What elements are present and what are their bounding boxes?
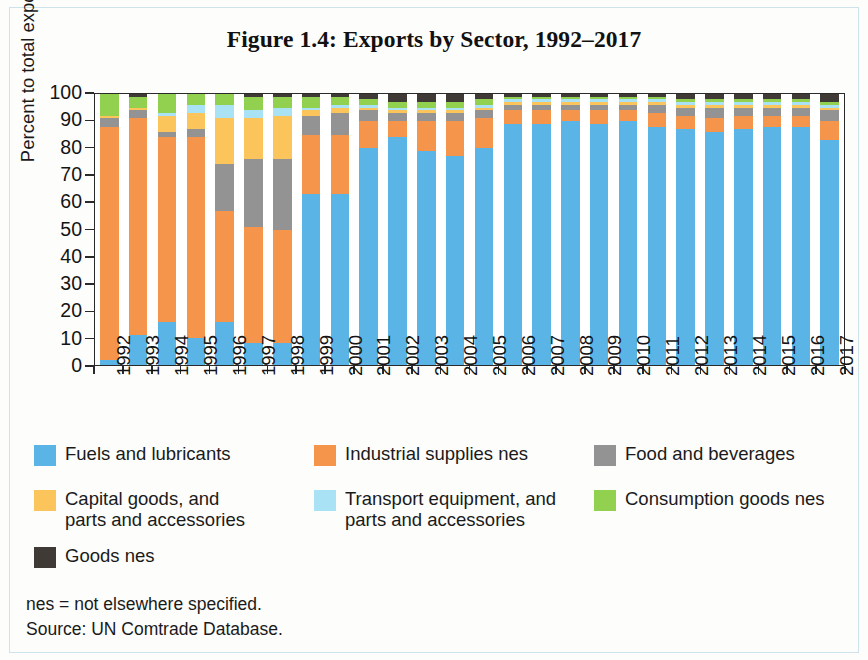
y-axis-tick-label: 30: [34, 274, 82, 294]
legend-label: Food and beverages: [625, 443, 795, 464]
bar-segment[interactable]: [763, 116, 781, 127]
x-axis-tick-label: 2005: [491, 306, 510, 376]
bar-segment[interactable]: [187, 94, 205, 105]
bar-segment[interactable]: [100, 118, 118, 126]
bar-segment[interactable]: [244, 118, 262, 159]
x-axis-tick-label: 2000: [347, 306, 366, 376]
bar-segment[interactable]: [388, 121, 406, 137]
x-axis-tick-label: 2011: [664, 306, 683, 376]
legend-item-consumption[interactable]: Consumption goods nes: [594, 488, 825, 511]
bar-segment[interactable]: [187, 105, 205, 113]
bar-segment[interactable]: [417, 121, 435, 151]
bar-segment[interactable]: [705, 118, 723, 132]
x-axis-tick-label: 1995: [202, 306, 221, 376]
y-axis-tick: [85, 92, 94, 94]
legend-label: Fuels and lubricants: [65, 443, 231, 464]
bar-segment[interactable]: [734, 108, 752, 116]
bar-segment[interactable]: [475, 110, 493, 118]
bar-segment[interactable]: [100, 94, 118, 116]
legend-item-industrial[interactable]: Industrial supplies nes: [314, 443, 528, 466]
legend-item-goodsnes[interactable]: Goods nes: [34, 545, 154, 568]
bar-segment[interactable]: [244, 97, 262, 111]
bar-segment[interactable]: [158, 116, 176, 132]
bar-segment[interactable]: [302, 97, 320, 108]
bar-segment[interactable]: [158, 137, 176, 321]
bar-segment[interactable]: [792, 116, 810, 127]
bar-segment[interactable]: [359, 110, 377, 121]
bar-segment[interactable]: [705, 108, 723, 119]
bar-segment[interactable]: [417, 94, 435, 102]
x-axis-tick-label: 2009: [606, 306, 625, 376]
legend-rows: Fuels and lubricantsIndustrial supplies …: [34, 443, 849, 593]
bar-segment[interactable]: [129, 118, 147, 335]
bar-segment[interactable]: [388, 113, 406, 121]
legend-swatch-icon: [314, 445, 336, 466]
bar-segment[interactable]: [676, 108, 694, 116]
bar-segment[interactable]: [359, 121, 377, 148]
figure-page: Figure 1.4: Exports by Sector, 1992–2017…: [0, 0, 868, 660]
bar-segment[interactable]: [331, 97, 349, 105]
legend-item-fuels[interactable]: Fuels and lubricants: [34, 443, 231, 466]
x-axis-tick-label: 1999: [318, 306, 337, 376]
bar-segment[interactable]: [417, 113, 435, 121]
x-axis-tick-label: 1998: [289, 306, 308, 376]
bar-segment[interactable]: [763, 108, 781, 116]
x-axis-tick: [93, 366, 95, 374]
legend-swatch-icon: [594, 490, 616, 511]
y-axis-tick-label: 60: [34, 192, 82, 212]
bar-segment[interactable]: [215, 105, 233, 119]
bar-segment[interactable]: [215, 118, 233, 164]
bar-segment[interactable]: [820, 121, 838, 140]
bar-segment[interactable]: [187, 113, 205, 129]
bar-segment[interactable]: [792, 108, 810, 116]
bar-segment[interactable]: [215, 164, 233, 210]
bar-segment[interactable]: [244, 159, 262, 227]
bar-segment[interactable]: [187, 129, 205, 137]
bar-segment[interactable]: [273, 116, 291, 159]
figure-notes: nes = not elsewhere specified. Source: U…: [26, 592, 283, 642]
bar-segment[interactable]: [273, 97, 291, 108]
bar-segment[interactable]: [648, 113, 666, 127]
legend-swatch-icon: [34, 490, 56, 511]
bar-segment[interactable]: [446, 121, 464, 156]
bar-segment[interactable]: [273, 108, 291, 116]
bar-segment[interactable]: [302, 116, 320, 135]
bar-segment[interactable]: [331, 135, 349, 195]
bar-segment[interactable]: [244, 110, 262, 118]
bar-segment[interactable]: [820, 94, 838, 102]
y-axis-tick-label: 20: [34, 301, 82, 321]
bar-segment[interactable]: [302, 135, 320, 195]
legend-item-transport[interactable]: Transport equipment, and parts and acces…: [314, 488, 556, 530]
bar-segment[interactable]: [388, 94, 406, 102]
legend-label: Transport equipment, and parts and acces…: [345, 488, 556, 530]
bar-segment[interactable]: [273, 159, 291, 229]
bar-segment[interactable]: [215, 211, 233, 322]
bar-segment[interactable]: [648, 105, 666, 113]
bar-segment[interactable]: [561, 110, 579, 121]
bar-segment[interactable]: [331, 113, 349, 135]
y-axis-tick: [85, 229, 94, 231]
bar-segment[interactable]: [676, 116, 694, 130]
bar-segment[interactable]: [129, 110, 147, 118]
legend-item-food[interactable]: Food and beverages: [594, 443, 795, 466]
x-axis-tick-label: 2015: [780, 306, 799, 376]
bar-segment[interactable]: [446, 113, 464, 121]
x-axis-tick-label: 2013: [722, 306, 741, 376]
y-axis-tick-label: 90: [34, 110, 82, 130]
bar-segment[interactable]: [504, 110, 522, 124]
y-axis-tick-label: 100: [34, 83, 82, 103]
legend-item-capital[interactable]: Capital goods, and parts and accessories: [34, 488, 245, 530]
x-axis-tick-label: 2002: [404, 306, 423, 376]
bar-segment[interactable]: [158, 94, 176, 113]
bar-segment[interactable]: [215, 94, 233, 105]
y-axis-tick: [85, 147, 94, 149]
bar-segment[interactable]: [590, 110, 608, 124]
bar-segment[interactable]: [446, 94, 464, 102]
bar-segment[interactable]: [820, 110, 838, 121]
bar-segment[interactable]: [475, 118, 493, 148]
bar-segment[interactable]: [532, 110, 550, 124]
bar-segment[interactable]: [129, 97, 147, 108]
legend-label: Capital goods, and parts and accessories: [65, 488, 245, 530]
bar-segment[interactable]: [619, 110, 637, 121]
bar-segment[interactable]: [734, 116, 752, 130]
